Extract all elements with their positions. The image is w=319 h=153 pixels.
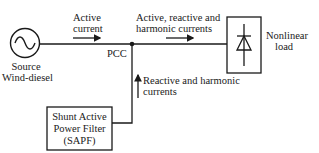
diode-icon (237, 24, 251, 66)
source-label: Source Wind-diesel (2, 61, 50, 83)
filter-currents-label: Reactive and harmonic currents (143, 75, 240, 97)
ac-source-icon (11, 29, 40, 58)
active-current-label: Active current (73, 12, 103, 34)
load-currents-label: Active, reactive and harmonic currents (136, 12, 220, 34)
pcc-label: PCC (107, 48, 127, 59)
sapf-label: Shunt Active Power Filter (SAPF) (47, 111, 112, 147)
load-label: Nonlinear load (266, 30, 308, 52)
